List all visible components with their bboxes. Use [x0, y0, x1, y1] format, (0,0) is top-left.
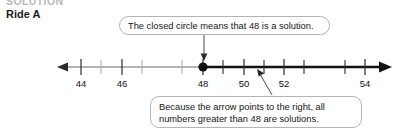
solution-ray — [202, 62, 392, 73]
number-line-diagram: 44 46 48 50 52 54 — [0, 44, 395, 90]
tick-label-46: 46 — [117, 78, 128, 89]
callout-closed-circle: The closed circle means that 48 is a sol… — [119, 16, 330, 35]
callout-arrow-direction-line2: numbers greater than 48 are solutions. — [159, 113, 353, 125]
closed-dot-at-48 — [198, 62, 207, 71]
callout-closed-circle-text: The closed circle means that 48 is a sol… — [128, 21, 314, 31]
callout-arrow-direction: Because the arrow points to the right, a… — [150, 96, 362, 128]
tick-label-50: 50 — [239, 78, 250, 89]
solution-heading: SOLUTION — [6, 0, 63, 7]
tick-label-44: 44 — [76, 78, 87, 89]
number-line-inactive-segment — [57, 63, 203, 72]
tick-label-48: 48 — [198, 78, 209, 89]
callout-arrow-direction-line1: Because the arrow points to the right, a… — [159, 101, 353, 113]
tick-label-52: 52 — [279, 78, 290, 89]
tick-label-54: 54 — [360, 78, 371, 89]
page-title: Ride A — [6, 8, 40, 20]
